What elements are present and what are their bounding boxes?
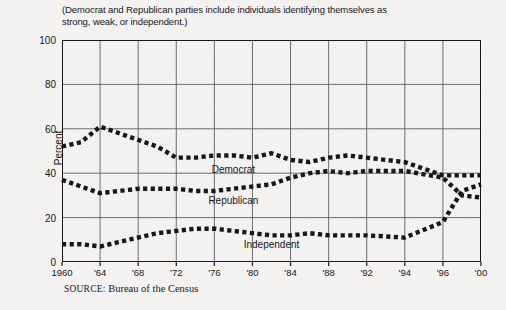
chart-subtitle: (Democrat and Republican parties include… <box>62 4 392 27</box>
series-annotation-independent: Independent <box>244 239 300 250</box>
source-note: SOURCE: Bureau of the Census <box>64 283 198 294</box>
chart-figure: (Democrat and Republican parties include… <box>0 0 506 310</box>
x-tick-label: '64 <box>94 267 106 278</box>
source-text: Bureau of the Census <box>106 283 199 294</box>
plot-border <box>62 40 481 262</box>
series-annotation-republican: Republican <box>208 194 258 205</box>
y-tick-label: 80 <box>45 79 56 90</box>
y-tick-label: 0 <box>50 257 56 268</box>
x-tick-label: '88 <box>322 267 334 278</box>
x-tick-label: '92 <box>361 267 373 278</box>
y-tick-label: 60 <box>45 123 56 134</box>
series-annotation-democrat: Democrat <box>212 163 255 174</box>
x-tick-label: '94 <box>399 267 411 278</box>
x-tick-label: '68 <box>132 267 144 278</box>
x-tick-label: '84 <box>284 267 296 278</box>
x-tick-label: '00 <box>475 267 487 278</box>
y-tick-label: 100 <box>39 35 56 46</box>
x-tick-label: '80 <box>246 267 258 278</box>
x-tick-label: 1960 <box>51 267 72 278</box>
source-label: SOURCE: <box>64 284 106 294</box>
y-tick-label: 20 <box>45 212 56 223</box>
x-tick-label: '76 <box>208 267 220 278</box>
plot-area: Percent 020406080100 1960'64'68'72'76'80… <box>62 40 481 262</box>
y-tick-label: 40 <box>45 168 56 179</box>
x-tick-label: '72 <box>170 267 182 278</box>
x-tick-label: '96 <box>437 267 449 278</box>
y-axis-title: Percent <box>53 131 64 165</box>
